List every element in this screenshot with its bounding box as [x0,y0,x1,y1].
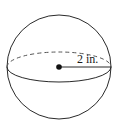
sphere-svg: 2 in. [0,0,119,130]
radius-label: 2 in. [77,52,98,66]
sphere-diagram: 2 in. [0,0,119,130]
center-point [56,64,62,70]
